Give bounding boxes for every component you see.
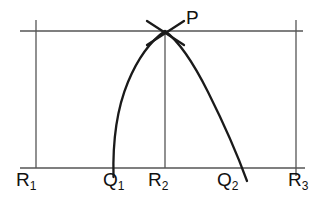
point-label-r3-text: R	[288, 169, 302, 190]
point-label-p-text: P	[186, 7, 199, 28]
point-label-r2-subscript: 2	[162, 179, 169, 193]
point-label-r2: R2	[148, 170, 168, 189]
point-label-q2-text: Q	[217, 169, 232, 190]
point-label-p: P	[186, 8, 199, 27]
point-label-r1-subscript: 1	[30, 179, 37, 193]
point-label-q2-subscript: 2	[232, 179, 239, 193]
point-label-q1: Q1	[103, 170, 124, 189]
point-label-r2-text: R	[148, 169, 162, 190]
point-label-q1-subscript: 1	[118, 179, 125, 193]
point-label-q2: Q2	[217, 170, 238, 189]
parabolic-curve	[113, 31, 247, 181]
point-label-r3: R3	[288, 170, 308, 189]
point-label-q1-text: Q	[103, 169, 118, 190]
geometric-diagram: P R1 Q1 R2 Q2 R3	[0, 0, 323, 210]
point-label-r3-subscript: 3	[302, 179, 309, 193]
point-label-r1-text: R	[16, 169, 30, 190]
point-label-r1: R1	[16, 170, 36, 189]
